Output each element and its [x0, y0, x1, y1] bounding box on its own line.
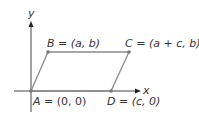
point-b-label: B = (a, b)	[47, 37, 100, 50]
x-axis-arrow-icon	[135, 89, 141, 94]
point-c-label: C = (a + c, b)	[125, 37, 199, 50]
parallelogram-shape	[31, 52, 129, 91]
y-axis-label: y	[27, 7, 35, 20]
parallelogram-diagram: y x B = (a, b) C = (a + c, b) A = (0, 0)…	[0, 0, 199, 117]
point-labels: B = (a, b) C = (a + c, b) A = (0, 0) D =…	[32, 37, 199, 108]
vertices	[29, 50, 131, 93]
point-a-marker	[29, 89, 33, 93]
point-d-label: D = (c, 0)	[107, 95, 160, 108]
point-a-label: A = (0, 0)	[32, 95, 86, 108]
point-c-marker	[127, 50, 131, 54]
y-axis-arrow-icon	[29, 21, 34, 27]
point-d-marker	[109, 89, 113, 93]
point-b-marker	[46, 50, 50, 54]
